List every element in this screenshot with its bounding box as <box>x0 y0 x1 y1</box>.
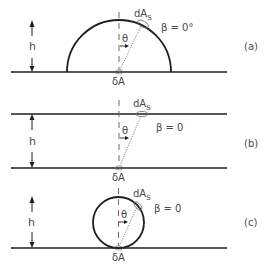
panel-label: (a) <box>244 41 258 52</box>
height-label: h <box>29 135 36 148</box>
height-dimension: h <box>28 196 35 248</box>
source-label: δA <box>112 252 125 263</box>
element-label: dAS <box>134 8 152 22</box>
panel-a: h θ dAS β = 0° δA (a) <box>11 8 258 87</box>
element-label: dAS <box>133 98 151 112</box>
height-dimension: h <box>29 20 36 72</box>
beta-label: β = 0 <box>154 203 181 214</box>
source-label: δA <box>112 172 125 183</box>
panel-c: h θ dAS β = 0 δA (c) <box>11 188 257 263</box>
view-factor-diagram: h θ dAS β = 0° δA (a) h θ <box>0 0 265 271</box>
theta-label: θ <box>122 33 128 44</box>
beta-label: β = 0° <box>161 22 193 33</box>
height-label: h <box>29 40 36 53</box>
panel-label: (c) <box>244 217 257 228</box>
sight-ray <box>119 116 141 168</box>
height-dimension: h <box>29 114 36 168</box>
source-label: δA <box>112 76 125 87</box>
sight-ray <box>119 24 142 72</box>
height-label: h <box>28 216 35 229</box>
theta-label: θ <box>121 209 127 220</box>
element-label: dAS <box>133 188 151 202</box>
beta-label: β = 0 <box>156 122 183 133</box>
theta-label: θ <box>122 125 128 136</box>
panel-b: h θ dAS β = 0 δA (b) <box>11 98 258 183</box>
panel-label: (b) <box>244 138 258 149</box>
